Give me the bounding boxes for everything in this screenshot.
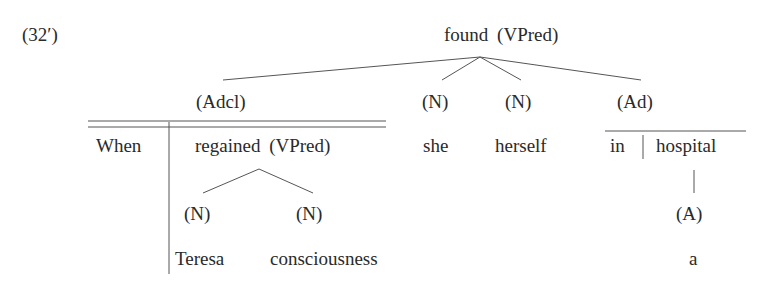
- word-a: a: [689, 248, 697, 270]
- word-when: When: [96, 135, 141, 157]
- branch-regained-teresa: [203, 169, 259, 193]
- root-word: found: [444, 24, 488, 45]
- word-in: in: [610, 135, 625, 157]
- word-teresa: Teresa: [175, 248, 224, 270]
- word-herself: herself: [495, 135, 547, 157]
- node-n-teresa: (N): [184, 203, 210, 225]
- regained-category: (VPred): [269, 135, 330, 156]
- root-category: (VPred): [497, 24, 558, 45]
- word-hospital: hospital: [656, 135, 716, 157]
- branch-regained-consciousness: [259, 169, 313, 193]
- example-number: (32′): [22, 24, 58, 46]
- node-n-consciousness: (N): [296, 203, 322, 225]
- word-regained: regained: [195, 135, 260, 156]
- node-ad: (Ad): [617, 91, 653, 113]
- word-she: she: [423, 135, 448, 157]
- node-regained: regained (VPred): [195, 135, 330, 157]
- node-adcl: (Adcl): [196, 91, 246, 113]
- word-consciousness: consciousness: [270, 248, 378, 270]
- node-a: (A): [676, 203, 702, 225]
- branch-found-n2: [480, 57, 521, 80]
- node-n-she: (N): [422, 91, 448, 113]
- branch-found-ad: [480, 57, 641, 80]
- branch-found-n1: [442, 57, 480, 80]
- node-n-herself: (N): [505, 91, 531, 113]
- root-node: found (VPred): [444, 24, 558, 46]
- branch-found-adcl: [223, 57, 480, 80]
